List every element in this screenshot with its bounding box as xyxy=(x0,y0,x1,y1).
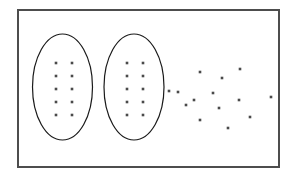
data-point xyxy=(71,101,74,104)
data-point xyxy=(142,62,145,65)
data-point xyxy=(239,68,242,71)
data-point xyxy=(199,71,202,74)
data-point xyxy=(55,62,58,65)
data-point xyxy=(227,127,230,130)
data-point xyxy=(142,114,145,117)
data-point xyxy=(71,62,74,65)
data-point xyxy=(71,88,74,91)
data-point xyxy=(126,62,129,65)
data-point xyxy=(142,101,145,104)
data-point xyxy=(212,92,215,95)
data-point xyxy=(168,90,171,93)
data-point xyxy=(142,75,145,78)
data-point xyxy=(126,75,129,78)
data-point xyxy=(221,77,224,80)
data-point xyxy=(238,99,241,102)
data-point xyxy=(126,114,129,117)
data-point xyxy=(55,114,58,117)
data-point xyxy=(55,75,58,78)
data-point xyxy=(218,107,221,110)
data-point xyxy=(142,88,145,91)
data-point xyxy=(126,101,129,104)
data-point xyxy=(249,116,252,119)
data-point xyxy=(55,101,58,104)
data-point xyxy=(270,96,273,99)
data-point xyxy=(193,99,196,102)
data-point xyxy=(55,88,58,91)
data-point xyxy=(177,91,180,94)
data-point xyxy=(126,88,129,91)
data-point xyxy=(71,75,74,78)
clustering-figure xyxy=(0,0,294,177)
figure-background xyxy=(0,0,294,177)
diagram-canvas xyxy=(0,0,294,177)
data-point xyxy=(185,104,188,107)
data-point xyxy=(71,114,74,117)
data-point xyxy=(199,119,202,122)
